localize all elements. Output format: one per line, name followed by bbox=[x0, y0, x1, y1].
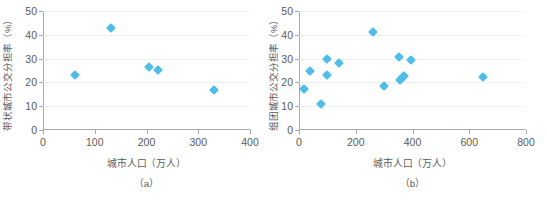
gridline-y-a bbox=[43, 35, 250, 36]
x-tick-b bbox=[469, 130, 470, 134]
y-tick-b bbox=[295, 59, 299, 60]
y-tick-label-b: 10 bbox=[281, 100, 293, 112]
x-tick-b bbox=[526, 130, 527, 134]
y-tick-label-a: 40 bbox=[25, 29, 37, 41]
gridline-y-a bbox=[43, 82, 250, 83]
y-tick-a bbox=[39, 106, 43, 107]
data-point-marker bbox=[406, 55, 416, 65]
data-point-marker bbox=[305, 66, 315, 76]
x-tick-label-b: 600 bbox=[460, 136, 478, 148]
y-tick-label-a: 30 bbox=[25, 53, 37, 65]
y-tick-b bbox=[295, 82, 299, 83]
x-tick-label-b: 800 bbox=[517, 136, 535, 148]
x-tick-a bbox=[198, 130, 199, 134]
y-axis-title-a: 带状城市公交分担率（%） bbox=[1, 4, 14, 142]
chart-panel-b: 组团城市公交分担率（%） 010203040500200400600800 城市… bbox=[266, 0, 547, 200]
data-point-marker bbox=[322, 54, 332, 64]
y-tick-label-a: 50 bbox=[25, 5, 37, 17]
y-tick-label-b: 30 bbox=[281, 53, 293, 65]
y-tick-a bbox=[39, 35, 43, 36]
x-tick-label-a: 0 bbox=[40, 136, 46, 148]
x-tick-a bbox=[147, 130, 148, 134]
gridline-y-a bbox=[43, 59, 250, 60]
y-tick-a bbox=[39, 82, 43, 83]
x-axis-title-a: 城市人口（万人） bbox=[43, 156, 250, 170]
gridline-y-a bbox=[43, 106, 250, 107]
y-tick-label-b: 40 bbox=[281, 29, 293, 41]
x-tick-label-b: 200 bbox=[347, 136, 365, 148]
y-tick-label-a: 20 bbox=[25, 76, 37, 88]
gridline-y-b bbox=[299, 82, 526, 83]
gridline-y-b bbox=[299, 11, 526, 12]
data-point-marker bbox=[106, 23, 116, 33]
data-point-marker bbox=[153, 65, 163, 75]
y-tick-label-a: 0 bbox=[31, 124, 37, 136]
data-point-marker bbox=[478, 72, 488, 82]
x-tick-label-a: 300 bbox=[189, 136, 207, 148]
x-tick-label-a: 400 bbox=[241, 136, 259, 148]
y-axis-line-b bbox=[299, 11, 300, 130]
x-tick-a bbox=[95, 130, 96, 134]
y-tick-b bbox=[295, 11, 299, 12]
x-tick-a bbox=[43, 130, 44, 134]
x-tick-label-b: 0 bbox=[296, 136, 302, 148]
panel-caption-a: （a） bbox=[43, 176, 250, 190]
y-tick-b bbox=[295, 35, 299, 36]
gridline-y-b bbox=[299, 35, 526, 36]
x-tick-label-a: 200 bbox=[138, 136, 156, 148]
data-point-marker bbox=[322, 70, 332, 80]
y-axis-line-a bbox=[43, 11, 44, 130]
y-tick-a bbox=[39, 59, 43, 60]
plot-area-b: 010203040500200400600800 bbox=[299, 11, 526, 130]
chart-panel-a: 带状城市公交分担率（%） 010203040500100200300400 城市… bbox=[0, 0, 266, 200]
x-tick-label-b: 400 bbox=[404, 136, 422, 148]
data-point-marker bbox=[394, 52, 404, 62]
figure-container: 带状城市公交分担率（%） 010203040500100200300400 城市… bbox=[0, 0, 547, 200]
gridline-y-b bbox=[299, 106, 526, 107]
y-tick-b bbox=[295, 106, 299, 107]
x-axis-title-b: 城市人口（万人） bbox=[299, 156, 526, 170]
y-tick-label-a: 10 bbox=[25, 100, 37, 112]
data-point-marker bbox=[299, 84, 309, 94]
data-point-marker bbox=[316, 99, 326, 109]
gridline-y-a bbox=[43, 11, 250, 12]
plot-area-a: 010203040500100200300400 bbox=[43, 11, 250, 130]
x-tick-a bbox=[250, 130, 251, 134]
y-tick-label-b: 20 bbox=[281, 76, 293, 88]
x-tick-b bbox=[413, 130, 414, 134]
data-point-marker bbox=[70, 70, 80, 80]
panel-caption-b: （b） bbox=[299, 176, 526, 190]
x-tick-label-a: 100 bbox=[86, 136, 104, 148]
y-tick-label-b: 0 bbox=[287, 124, 293, 136]
y-tick-a bbox=[39, 11, 43, 12]
y-tick-label-b: 50 bbox=[281, 5, 293, 17]
data-point-marker bbox=[209, 85, 219, 95]
y-axis-title-b: 组团城市公交分担率（%） bbox=[267, 4, 280, 142]
x-tick-b bbox=[356, 130, 357, 134]
x-tick-b bbox=[299, 130, 300, 134]
